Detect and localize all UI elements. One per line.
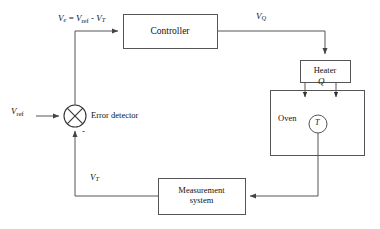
reference-voltage-label: Vref [11,107,24,117]
error-expression-t: T [102,16,106,23]
control-voltage-label: VQ [256,12,266,22]
error-expression-equals: = [69,13,74,23]
control-voltage-path [217,31,325,54]
temperature-sensor-label: T [315,119,319,127]
diagram-canvas: Controller Heater Oven Measurement syste… [0,0,380,229]
control-voltage-sub: Q [262,14,267,21]
error-expression-e: e [64,16,67,23]
error-detector-label: Error detector [91,111,138,120]
heat-flow-label: Q [318,77,325,86]
oven-block-label: Oven [278,112,312,126]
error-detector-symbol [64,105,86,127]
sensor-output-path [250,133,318,196]
heater-block-label: Heater [300,60,350,82]
measured-voltage-label: VT [90,173,99,183]
error-signal-path [75,31,118,105]
reference-voltage-sub: ref [17,110,24,117]
error-expression-label: Ve = Vref - VT [58,14,105,24]
error-expression-ref: ref [81,17,88,24]
measured-voltage-sub: T [96,175,100,182]
controller-block-label: Controller [123,14,217,48]
minus-sign-label: - [82,127,85,136]
error-expression-minus: - [91,13,94,23]
measurement-block-label: Measurement system [158,178,245,214]
